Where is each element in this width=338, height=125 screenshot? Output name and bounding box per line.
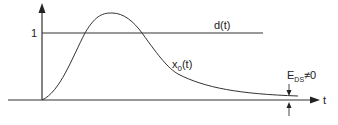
- x-axis-label: t: [323, 94, 326, 106]
- error-arrow-up-icon: [287, 102, 292, 108]
- response-curve: [42, 13, 298, 100]
- x-axis-arrow-icon: [310, 97, 320, 104]
- y-tick-label: 1: [31, 27, 37, 39]
- error-label: EDS≠0: [287, 69, 316, 83]
- step-response-diagram: 1 d(t) x0(t) EDS≠0 t: [0, 0, 338, 125]
- response-label: x0(t): [172, 58, 192, 73]
- reference-label: d(t): [214, 19, 231, 31]
- y-axis-arrow-icon: [39, 3, 46, 13]
